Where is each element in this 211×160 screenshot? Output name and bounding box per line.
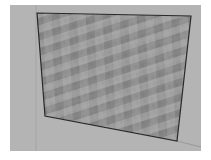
rendered-scene	[0, 0, 211, 160]
